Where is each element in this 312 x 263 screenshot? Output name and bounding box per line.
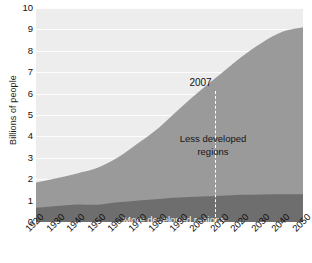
y-axis-tick-4: 4 xyxy=(3,132,33,142)
series-label-less-developed: Less developed regions xyxy=(154,133,272,158)
y-axis-tick-1: 1 xyxy=(3,196,33,206)
stacked-area-series xyxy=(36,8,303,222)
x-axis-tick-labels: 1920193019401950196019701980199020002010… xyxy=(0,222,312,263)
series-label-less-developed-line2: regions xyxy=(197,146,228,157)
y-axis-tick-7: 7 xyxy=(3,67,33,77)
area-less-developed-regions xyxy=(36,27,303,222)
y-axis-tick-10: 10 xyxy=(3,3,33,13)
series-label-less-developed-line1: Less developed xyxy=(180,133,247,144)
y-axis-tick-9: 9 xyxy=(3,25,33,35)
population-area-chart: Billions of people 109876543210 2007 Les… xyxy=(0,0,312,263)
y-axis-tick-6: 6 xyxy=(3,89,33,99)
y-axis-tick-5: 5 xyxy=(3,110,33,120)
y-axis-tick-2: 2 xyxy=(3,174,33,184)
y-axis-tick-8: 8 xyxy=(3,46,33,56)
annotation-2007-label: 2007 xyxy=(189,77,211,88)
plot-area: 2007 Less developed regions More develop… xyxy=(36,8,303,222)
y-axis-tick-3: 3 xyxy=(3,153,33,163)
